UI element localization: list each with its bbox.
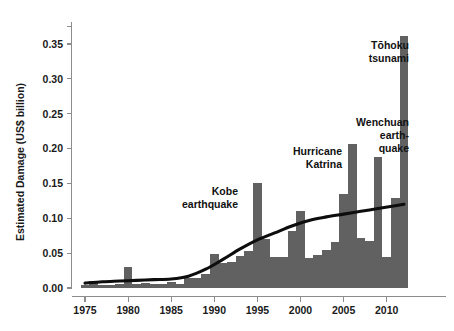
- bars-group: [81, 36, 409, 288]
- x-tick-label-1995: 1995: [246, 304, 270, 316]
- bar-1978: [107, 285, 116, 288]
- bar-2009: [374, 157, 383, 288]
- bar-1996: [262, 239, 271, 289]
- chart-figure: 0.000.050.100.150.200.250.300.35 1975198…: [0, 0, 454, 331]
- bar-2002: [313, 255, 322, 288]
- annotation-wenchuan-line-1: Wenchuan: [356, 116, 409, 128]
- bar-1998: [279, 257, 288, 288]
- annotation-kobe: Kobeearthquake: [182, 185, 238, 210]
- bar-1989: [201, 274, 210, 288]
- bar-2012: [400, 36, 409, 288]
- annotation-wenchuan-line-2: earth-: [380, 129, 410, 141]
- annotation-tohoku-line-1: Tōhoku: [371, 39, 409, 51]
- bar-1993: [236, 256, 245, 288]
- bar-1982: [141, 283, 150, 288]
- bar-2007: [357, 238, 366, 288]
- bar-1995: [253, 183, 262, 288]
- bar-1994: [244, 251, 253, 288]
- bar-1979: [115, 284, 124, 288]
- bar-1983: [150, 284, 159, 288]
- y-tick-label-0.10: 0.10: [43, 212, 64, 224]
- bar-2003: [322, 250, 331, 288]
- bar-1997: [270, 257, 279, 288]
- annotation-katrina-line-2: Katrina: [306, 158, 342, 170]
- bar-1984: [158, 284, 167, 288]
- bar-2008: [365, 241, 374, 288]
- x-tick-label-1980: 1980: [116, 304, 140, 316]
- bar-2010: [382, 257, 391, 288]
- bar-1999: [288, 231, 297, 288]
- annotation-kobe-line-2: earthquake: [182, 198, 238, 210]
- y-tick-label-0.00: 0.00: [43, 282, 64, 294]
- bar-1975: [81, 285, 90, 288]
- annotation-tohoku: Tōhokutsunami: [369, 39, 409, 64]
- annotation-katrina-line-1: Hurricane: [293, 145, 342, 157]
- bar-2006: [348, 144, 357, 288]
- y-tick-label-0.30: 0.30: [43, 73, 64, 85]
- bar-1981: [132, 284, 141, 288]
- annotation-kobe-line-1: Kobe: [212, 185, 238, 197]
- x-tick-label-2000: 2000: [289, 304, 313, 316]
- bar-1990: [210, 254, 219, 288]
- y-tick-label-0.15: 0.15: [43, 177, 64, 189]
- x-tick-label-1975: 1975: [73, 304, 97, 316]
- bar-2001: [305, 258, 314, 288]
- chart-canvas: 0.000.050.100.150.200.250.300.35 1975198…: [0, 0, 454, 331]
- y-axis-title-text: Estimated Damage (US$ billion): [14, 83, 26, 241]
- y-tick-label-0.20: 0.20: [43, 142, 64, 154]
- bar-1986: [176, 284, 185, 288]
- y-tick-label-0.25: 0.25: [43, 108, 64, 120]
- x-axis-ticks: 19751980198519901995200020052010: [73, 297, 398, 317]
- y-axis-title: Estimated Damage (US$ billion): [14, 83, 26, 241]
- annotation-tohoku-line-2: tsunami: [369, 52, 409, 64]
- annotation-katrina: HurricaneKatrina: [293, 145, 342, 170]
- bar-2011: [391, 198, 400, 288]
- y-tick-label-0.05: 0.05: [43, 247, 64, 259]
- bar-1991: [219, 263, 228, 288]
- annotation-wenchuan-line-3: quake: [379, 142, 410, 154]
- annotation-wenchuan: Wenchuanearth-quake: [356, 116, 409, 154]
- x-tick-label-2005: 2005: [332, 304, 356, 316]
- bar-2004: [331, 242, 340, 288]
- x-tick-label-1985: 1985: [160, 304, 184, 316]
- y-tick-label-0.35: 0.35: [43, 38, 64, 50]
- bar-1985: [167, 282, 176, 288]
- bar-2005: [339, 194, 348, 288]
- x-tick-label-1990: 1990: [203, 304, 227, 316]
- bar-1977: [98, 285, 107, 288]
- bar-1992: [227, 262, 236, 288]
- bar-1987: [184, 278, 193, 288]
- bar-1988: [193, 278, 202, 288]
- x-tick-label-2010: 2010: [375, 304, 399, 316]
- bar-1980: [124, 267, 133, 288]
- y-axis-ticks: 0.000.050.100.150.200.250.300.35: [43, 27, 72, 294]
